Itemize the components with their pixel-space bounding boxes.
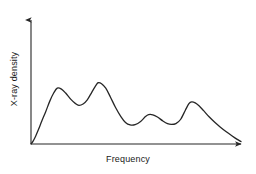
chart-canvas [0, 0, 256, 174]
y-axis-label: X-ray density [10, 52, 19, 106]
spectrum-curve-group [31, 83, 241, 144]
y-axis-label-container: X-ray density [0, 14, 28, 144]
xray-density-spectrum-figure: X-ray density Frequency [0, 0, 256, 174]
axes-group [31, 20, 241, 144]
x-axis-label: Frequency [0, 155, 256, 164]
spectrum-curve [31, 83, 241, 144]
